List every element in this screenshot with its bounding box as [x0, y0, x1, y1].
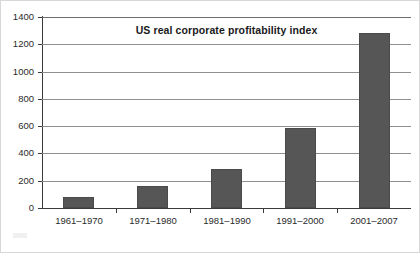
y-tick-label: 1200	[1, 39, 34, 49]
y-tick-label: 400	[1, 148, 34, 158]
y-tick-label: 1000	[1, 67, 34, 77]
gridline	[42, 99, 411, 100]
scan-artifact	[13, 233, 27, 238]
y-tick-mark	[38, 126, 42, 127]
y-tick-label: 600	[1, 121, 34, 131]
y-tick-mark	[38, 153, 42, 154]
y-tick-mark	[38, 99, 42, 100]
y-tick-mark	[38, 17, 42, 18]
y-tick-mark	[38, 44, 42, 45]
chart-figure: US real corporate profitability index 02…	[0, 0, 420, 253]
bar	[359, 33, 390, 208]
bar	[285, 128, 316, 208]
bar	[63, 197, 94, 208]
bar	[137, 186, 168, 208]
x-axis-line	[42, 208, 411, 209]
gridline	[42, 72, 411, 73]
gridline	[42, 153, 411, 154]
x-tick-mark	[190, 209, 191, 213]
y-tick-mark	[38, 208, 42, 209]
gridline	[42, 126, 411, 127]
x-axis-category-label: 2001–2007	[337, 216, 411, 226]
y-tick-mark	[38, 72, 42, 73]
gridline	[42, 17, 411, 18]
y-tick-label: 0	[1, 203, 34, 213]
x-axis-category-label: 1971–1980	[116, 216, 190, 226]
y-tick-label: 800	[1, 94, 34, 104]
x-axis-category-label: 1981–1990	[190, 216, 264, 226]
gridline	[42, 44, 411, 45]
x-tick-mark	[263, 209, 264, 213]
x-axis-category-label: 1991–2000	[263, 216, 337, 226]
x-tick-mark	[116, 209, 117, 213]
y-tick-label: 1400	[1, 12, 34, 22]
x-axis-category-label: 1961–1970	[42, 216, 116, 226]
x-tick-mark	[337, 209, 338, 213]
y-tick-mark	[38, 181, 42, 182]
y-tick-label: 200	[1, 176, 34, 186]
bar	[211, 169, 242, 208]
